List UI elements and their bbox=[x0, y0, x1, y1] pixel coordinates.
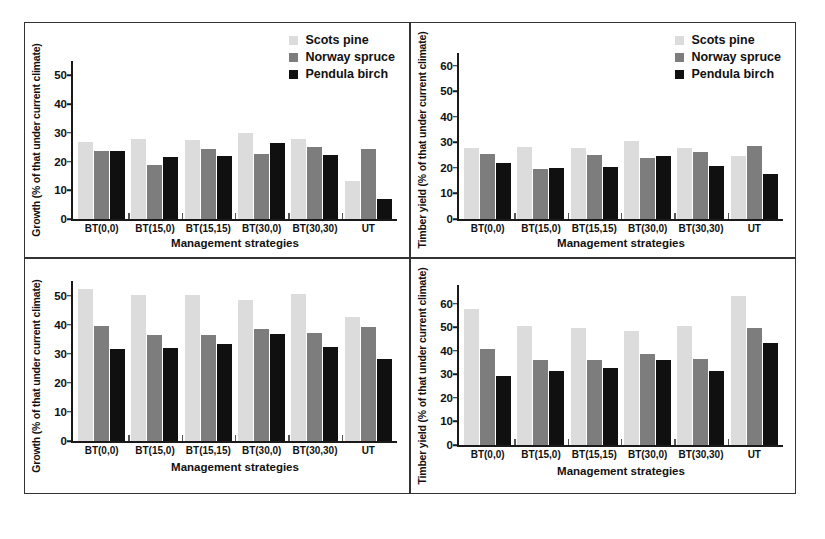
bar bbox=[624, 331, 639, 445]
bar-group bbox=[568, 53, 621, 219]
bar bbox=[747, 146, 762, 219]
y-axis-tick-label: 10 bbox=[440, 187, 453, 199]
bar bbox=[254, 329, 269, 441]
y-axis-tick-label: 20 bbox=[440, 162, 453, 174]
legend-item-scots-pine: Scots pine bbox=[675, 33, 781, 47]
bar bbox=[549, 371, 564, 445]
x-axis-separator bbox=[288, 213, 289, 219]
x-axis-category-label: UT bbox=[728, 223, 781, 234]
bar-groups bbox=[75, 281, 395, 441]
x-axis-category-label: UT bbox=[342, 445, 395, 456]
x-axis-category-label: BT(30,0) bbox=[621, 449, 674, 460]
x-axis-line bbox=[457, 219, 783, 221]
y-axis-tick-label: 50 bbox=[54, 69, 67, 81]
y-axis-tick-mark bbox=[67, 132, 71, 134]
y-axis-tick-label: 60 bbox=[440, 60, 453, 72]
bar bbox=[323, 155, 338, 219]
legend-label-scots-pine: Scots pine bbox=[305, 33, 368, 47]
bar bbox=[78, 142, 93, 219]
y-axis-tick-label: 10 bbox=[440, 415, 453, 427]
bar bbox=[270, 143, 285, 219]
y-axis-tick-mark bbox=[453, 327, 457, 329]
bar-group bbox=[461, 285, 514, 445]
bar bbox=[345, 181, 360, 219]
axes-bottom-left: 01020304050BT(0,0)BT(15,0)BT(15,15)BT(30… bbox=[71, 259, 399, 493]
bar bbox=[78, 289, 93, 441]
x-axis-category-label: BT(0,0) bbox=[75, 445, 128, 456]
x-axis-title: Management strategies bbox=[71, 461, 399, 473]
x-axis-category-label: BT(0,0) bbox=[461, 449, 514, 460]
bar-group bbox=[235, 281, 288, 441]
legend-item-pendula-birch: Pendula birch bbox=[289, 67, 395, 81]
x-axis-category-label: BT(15,0) bbox=[514, 449, 567, 460]
y-axis-tick-label: 10 bbox=[54, 406, 67, 418]
y-axis-tick-mark bbox=[453, 397, 457, 399]
x-axis-category-label: BT(15,15) bbox=[182, 223, 235, 234]
y-axis-title-top-left: Growth (% of that under current climate) bbox=[27, 23, 45, 257]
bar-group bbox=[128, 281, 181, 441]
y-axis-tick-label: 60 bbox=[440, 298, 453, 310]
bar bbox=[345, 317, 360, 441]
bar bbox=[480, 349, 495, 445]
bar bbox=[361, 149, 376, 219]
y-axis-tick-mark bbox=[453, 444, 457, 446]
legend-item-norway-spruce: Norway spruce bbox=[675, 50, 781, 64]
bar bbox=[571, 148, 586, 220]
y-axis-tick-label: 10 bbox=[54, 184, 67, 196]
x-axis-title: Management strategies bbox=[71, 237, 399, 249]
y-axis-tick-label: 50 bbox=[54, 290, 67, 302]
bar bbox=[731, 296, 746, 445]
bar bbox=[323, 347, 338, 441]
y-axis-tick-mark bbox=[67, 353, 71, 355]
x-axis-category-label: UT bbox=[728, 449, 781, 460]
y-axis-title-label: Growth (% of that under current climate) bbox=[30, 43, 42, 236]
bar-group bbox=[182, 281, 235, 441]
y-axis-tick-mark bbox=[67, 103, 71, 105]
x-axis-category-label: BT(0,0) bbox=[461, 223, 514, 234]
x-axis-separator bbox=[235, 213, 236, 219]
x-axis-category-label: BT(15,0) bbox=[128, 223, 181, 234]
y-axis-tick-mark bbox=[453, 116, 457, 118]
bar-group bbox=[235, 61, 288, 219]
y-axis-tick-mark bbox=[453, 374, 457, 376]
bar bbox=[94, 326, 109, 441]
y-axis-tick-label: 40 bbox=[54, 98, 67, 110]
bar bbox=[480, 154, 495, 219]
x-axis-category-label: BT(15,0) bbox=[128, 445, 181, 456]
bar bbox=[517, 147, 532, 219]
y-axis-tick-label: 50 bbox=[440, 321, 453, 333]
legend-label-pendula-birch: Pendula birch bbox=[691, 67, 774, 81]
bar bbox=[533, 169, 548, 219]
x-axis-separator bbox=[235, 435, 236, 441]
bar bbox=[709, 371, 724, 445]
x-axis-category-labels: BT(0,0)BT(15,0)BT(15,15)BT(30,0)BT(30,30… bbox=[461, 449, 781, 460]
panel-top-right: Timber yield (% of that under current cl… bbox=[410, 22, 796, 258]
bar bbox=[693, 359, 708, 445]
bar bbox=[307, 333, 322, 441]
bar bbox=[94, 151, 109, 219]
bar-groups bbox=[461, 285, 781, 445]
x-axis-separator bbox=[568, 213, 569, 219]
y-axis-tick-mark bbox=[67, 75, 71, 77]
panel-grid: Growth (% of that under current climate)… bbox=[24, 22, 796, 494]
y-axis-tick-label: 20 bbox=[440, 392, 453, 404]
x-axis-category-label: BT(30,30) bbox=[288, 223, 341, 234]
y-axis-tick-label: 20 bbox=[54, 156, 67, 168]
bar-group bbox=[514, 285, 567, 445]
bar-group bbox=[342, 281, 395, 441]
x-axis-category-label: BT(30,30) bbox=[674, 223, 727, 234]
bar bbox=[110, 349, 125, 442]
y-axis-line bbox=[457, 53, 459, 221]
x-axis-category-labels: BT(0,0)BT(15,0)BT(15,15)BT(30,0)BT(30,30… bbox=[75, 445, 395, 456]
y-axis-title-label: Growth (% of that under current climate) bbox=[30, 279, 42, 472]
bar bbox=[763, 343, 778, 445]
axes-bottom-right: 0102030405060BT(0,0)BT(15,0)BT(15,15)BT(… bbox=[457, 259, 785, 493]
bar bbox=[377, 199, 392, 219]
bar-group bbox=[621, 53, 674, 219]
bar bbox=[603, 368, 618, 445]
panel-bottom-right: Timber yield (% of that under current cl… bbox=[410, 258, 796, 494]
bar bbox=[656, 360, 671, 445]
x-axis-category-label: UT bbox=[342, 223, 395, 234]
bar-group bbox=[75, 61, 128, 219]
panel-bottom-left: Growth (% of that under current climate)… bbox=[24, 258, 410, 494]
